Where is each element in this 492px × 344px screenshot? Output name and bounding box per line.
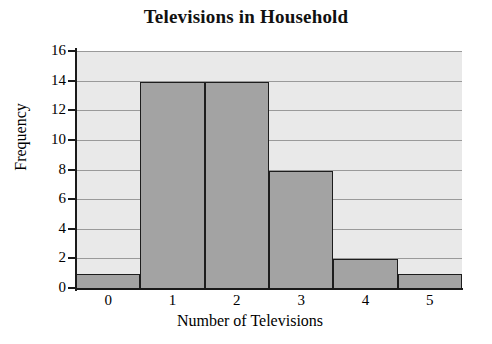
y-tick-label-0: 0 (40, 280, 66, 295)
y-tick-labels: 16 14 12 10 8 6 4 2 0 (36, 0, 66, 344)
y-tick-label-14: 14 (40, 73, 66, 88)
y-tick-mark-8 (68, 169, 76, 171)
bar-1 (140, 82, 204, 289)
y-tick-label-12: 12 (40, 102, 66, 117)
y-tick-mark-2 (68, 257, 76, 259)
y-tick-mark-4 (68, 228, 76, 230)
x-tick-label-2: 2 (205, 292, 269, 309)
y-axis-title: Frequency (12, 72, 30, 202)
y-tick-mark-16 (68, 50, 76, 52)
y-tick-mark-0 (68, 287, 76, 289)
y-tick-label-2: 2 (40, 250, 66, 265)
histogram-figure: Televisions in Household 16 14 12 10 8 6… (0, 0, 492, 344)
y-tick-label-8: 8 (40, 162, 66, 177)
bar-0 (76, 274, 140, 289)
y-tick-label-16: 16 (40, 43, 66, 58)
x-axis-title: Number of Televisions (40, 312, 460, 330)
y-tick-label-4: 4 (40, 221, 66, 236)
y-tick-mark-14 (68, 80, 76, 82)
chart-title: Televisions in Household (0, 6, 492, 28)
y-tick-mark-12 (68, 109, 76, 111)
bar-4 (333, 259, 397, 289)
bars-layer (76, 51, 462, 289)
y-tick-label-10: 10 (40, 132, 66, 147)
x-tick-label-4: 4 (333, 292, 397, 309)
bar-5 (398, 274, 462, 289)
y-tick-mark-10 (68, 139, 76, 141)
x-tick-label-0: 0 (76, 292, 140, 309)
bar-3 (269, 171, 333, 290)
x-tick-label-1: 1 (140, 292, 204, 309)
x-tick-label-5: 5 (398, 292, 462, 309)
y-tick-mark-6 (68, 198, 76, 200)
bar-2 (205, 82, 269, 289)
x-tick-label-3: 3 (269, 292, 333, 309)
x-axis-line (75, 288, 463, 290)
y-tick-label-6: 6 (40, 191, 66, 206)
